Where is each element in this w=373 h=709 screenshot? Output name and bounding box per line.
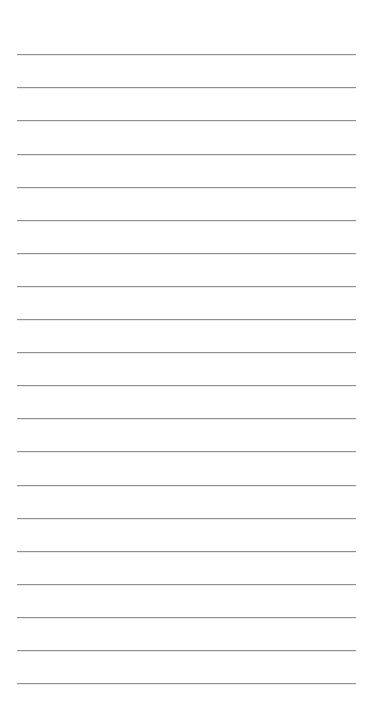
ruled-line bbox=[17, 154, 356, 155]
ruled-line bbox=[17, 385, 356, 386]
ruled-line bbox=[17, 286, 356, 287]
ruled-line bbox=[17, 220, 356, 221]
ruled-line bbox=[17, 518, 356, 519]
ruled-line-area bbox=[0, 0, 373, 709]
ruled-line bbox=[17, 418, 356, 419]
ruled-line bbox=[17, 120, 356, 121]
ruled-line bbox=[17, 319, 356, 320]
ruled-line bbox=[17, 187, 356, 188]
ruled-line bbox=[17, 617, 356, 618]
note-sheet bbox=[0, 0, 373, 709]
ruled-line bbox=[17, 551, 356, 552]
ruled-line bbox=[17, 683, 356, 684]
ruled-line bbox=[17, 253, 356, 254]
ruled-line bbox=[17, 584, 356, 585]
ruled-line bbox=[17, 352, 356, 353]
ruled-line bbox=[17, 87, 356, 88]
ruled-line bbox=[17, 485, 356, 486]
ruled-line bbox=[17, 650, 356, 651]
ruled-line bbox=[17, 54, 356, 55]
ruled-line bbox=[17, 451, 356, 452]
